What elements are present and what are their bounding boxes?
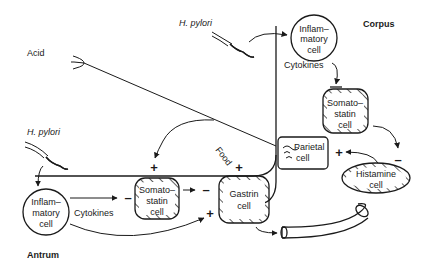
minus-sign: – xyxy=(124,190,131,205)
svg-text:Histamine: Histamine xyxy=(356,169,396,179)
plus-sign: + xyxy=(206,206,214,221)
svg-text:statin: statin xyxy=(146,196,168,206)
gastrin-cell: Gastrin cell xyxy=(219,176,269,223)
svg-text:cell: cell xyxy=(237,201,251,211)
svg-text:matory: matory xyxy=(300,34,328,44)
cytokines-to-somatostatin-corpus-arrow xyxy=(332,63,337,84)
h-pylori-top-label: H. pylori xyxy=(179,18,213,28)
svg-text:Somato–: Somato– xyxy=(327,98,363,108)
histamine-cell: Histamine cell xyxy=(342,163,410,193)
svg-text:matory: matory xyxy=(32,208,60,218)
svg-text:Inflam–: Inflam– xyxy=(299,24,329,34)
inflammatory-cell-antrum: Inflam– matory cell xyxy=(23,189,69,235)
food-label: Food xyxy=(213,145,234,167)
corpus-region-label: Corpus xyxy=(363,19,395,29)
h-pylori-left: H. pylori xyxy=(25,127,68,169)
somatostatin-to-histamine-arrow xyxy=(373,126,398,148)
plus-sign: + xyxy=(335,145,343,160)
svg-text:cell: cell xyxy=(307,45,321,55)
histamine-to-parietal-arrow xyxy=(346,152,378,163)
food-arrow xyxy=(155,120,214,158)
svg-text:cell: cell xyxy=(369,180,383,190)
parietal-cell: Parietal cell xyxy=(278,137,328,169)
svg-text:cell: cell xyxy=(338,120,352,130)
gastric-physiology-diagram: Food H. pylori Inflam– matory cell Cytok… xyxy=(0,0,432,272)
h-pylori-left-label: H. pylori xyxy=(27,127,61,137)
svg-text:cell: cell xyxy=(296,153,310,163)
inflammatory-to-gastrin-arrow xyxy=(70,218,204,236)
acid-trident xyxy=(71,56,276,146)
svg-text:Gastrin: Gastrin xyxy=(229,189,258,199)
antrum-region-label: Antrum xyxy=(27,250,59,260)
h-pylori-top: H. pylori xyxy=(179,18,254,57)
minus-sign: – xyxy=(202,182,209,197)
gastrin-to-bloodstream-arrow xyxy=(256,227,277,233)
plus-sign: + xyxy=(150,160,158,175)
svg-text:cell: cell xyxy=(150,207,164,217)
plus-sign: + xyxy=(235,160,243,175)
h-pylori-to-inflammatory-corpus-arrow xyxy=(249,34,287,42)
blood-vessel xyxy=(281,203,370,238)
svg-text:Parietal: Parietal xyxy=(294,142,325,152)
svg-text:statin: statin xyxy=(334,109,356,119)
cytokines-corpus-label: Cytokines xyxy=(284,60,324,70)
cytokines-antrum-label: Cytokines xyxy=(74,208,114,218)
svg-text:Inflam–: Inflam– xyxy=(31,197,61,207)
somatostatin-cell-antrum: Somato– statin cell xyxy=(135,178,179,219)
inflammatory-cell-corpus: Inflam– matory cell xyxy=(291,15,337,61)
somatostatin-cell-corpus: Somato– statin cell xyxy=(323,89,368,133)
acid-label: Acid xyxy=(27,48,45,58)
minus-sign: – xyxy=(394,152,401,167)
svg-text:cell: cell xyxy=(39,219,53,229)
svg-text:Somato–: Somato– xyxy=(139,185,175,195)
